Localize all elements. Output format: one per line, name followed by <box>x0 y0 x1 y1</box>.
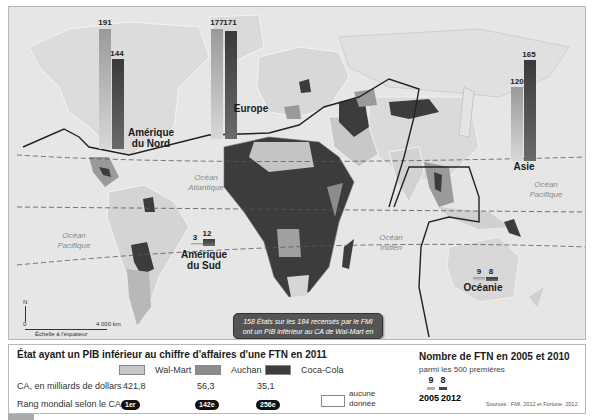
ca-walmart: 421,8 <box>123 381 146 391</box>
swatch-walmart <box>119 365 145 375</box>
label-auchan: Auchan <box>231 365 262 375</box>
region-label-oceanie: Océanie <box>461 282 505 293</box>
callout-line-1: 158 États sur les 184 recensés par le FM… <box>234 317 382 327</box>
callout-box: 158 États sur les 184 recensés par le FM… <box>233 313 383 339</box>
ftn-legend-title: Nombre de FTN en 2005 et 2010 <box>419 351 570 362</box>
region-label-asie: Asie <box>504 161 544 172</box>
ftn-year-2012: 2012 <box>441 393 461 403</box>
ftn-year-2005: 2005 <box>419 393 439 403</box>
scale-caption: Échelle à l'équateur <box>35 331 88 337</box>
world-map: OcéanAtlantique OcéanPacifique OcéanPaci… <box>8 6 586 340</box>
scale-zero: 0 <box>23 321 26 327</box>
bar-europe-2012 <box>225 31 237 139</box>
ca-auchan: 56,3 <box>197 381 215 391</box>
swatch-auchan <box>195 365 221 375</box>
sources-note: Sources : FMI, 2012 et Fortune, 2012. <box>486 401 579 407</box>
scale-bar: N 0 4 000 km Échelle à l'équateur <box>21 299 113 339</box>
ocean-label-atlantique: OcéanAtlantique <box>181 173 231 193</box>
callout-line-2: ont un PIB inférieur au CA de Wal-Mart e… <box>234 327 382 340</box>
label-cocacola: Coca-Cola <box>301 365 344 375</box>
rank-auchan: 142e <box>195 400 219 410</box>
swatch-no-data <box>321 395 345 407</box>
bar-value-oceanie-2012: 8 <box>481 267 501 276</box>
ftn-example-2012: 8 <box>433 375 453 385</box>
ca-cocacola: 35,1 <box>257 381 275 391</box>
swatch-cocacola <box>265 365 291 375</box>
bar-amn-2005 <box>99 29 111 149</box>
region-label-amerique-sud: Amériquedu Sud <box>179 249 229 271</box>
region-label-amerique-nord: Amériquedu Nord <box>121 127 181 149</box>
region-label-europe: Europe <box>231 103 271 114</box>
ftn-legend-subtitle: parmi les 500 premières <box>419 365 505 374</box>
bar-value-europe-2012: 171 <box>220 18 240 27</box>
bar-asie-2012 <box>524 60 536 161</box>
bar-europe-2005 <box>211 29 223 139</box>
legend-panel: État ayant un PIB inférieur au chiffre d… <box>8 344 586 414</box>
bar-value-amn-2012: 144 <box>107 49 127 58</box>
bar-oceanie-2012 <box>486 277 498 281</box>
label-no-data: aucunedonnée <box>349 389 376 409</box>
scale-line <box>25 329 107 330</box>
ocean-label-pacifique-ouest: OcéanPacifique <box>49 231 99 251</box>
bar-value-asie-2012: 165 <box>519 50 539 59</box>
ocean-label-indien: OcéanIndien <box>371 233 411 253</box>
label-walmart: Wal-Mart <box>155 365 191 375</box>
bar-value-ams-2012: 12 <box>197 229 217 238</box>
north-arrow-icon: N <box>23 299 27 305</box>
rank-cocacola: 256e <box>256 400 280 410</box>
legend-title: État ayant un PIB inférieur au chiffre d… <box>17 349 327 360</box>
page-tab-marker <box>8 414 34 420</box>
ocean-label-pacifique-est: OcéanPacifique <box>521 180 571 200</box>
bar-asie-2005 <box>511 87 523 161</box>
ftn-swatch-2005 <box>427 387 435 390</box>
rank-walmart: 1er <box>121 400 140 410</box>
ftn-swatch-2012 <box>439 387 447 390</box>
bar-ams-2012 <box>203 239 215 246</box>
north-arrow-line <box>25 306 26 322</box>
ca-row-label: CA, en milliards de dollars <box>17 381 122 391</box>
bar-ams-2005 <box>191 243 203 245</box>
bar-oceanie-2005 <box>473 277 485 281</box>
bar-value-amn-2005: 191 <box>95 18 115 27</box>
rank-row-label: Rang mondial selon le CA <box>17 399 121 409</box>
scale-distance: 4 000 km <box>96 321 121 327</box>
